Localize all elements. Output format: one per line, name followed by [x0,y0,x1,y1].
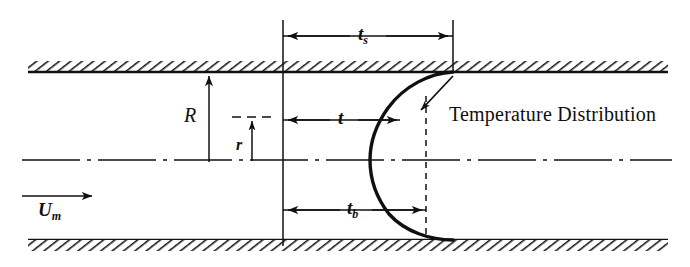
top-wall [28,61,668,72]
label-tb-subscript: b [352,207,358,221]
label-temperature-distribution: Temperature Distribution [449,104,656,124]
label-radius-outer: R [184,105,196,125]
top-wall-hatching [28,61,668,72]
label-mean-velocity: Um [38,200,61,219]
bottom-wall-hatching [28,240,668,251]
label-ts-subscript: s [363,33,368,47]
temperature-distribution-figure: ts t tb R r Um Temperature Distribution [0,0,690,267]
label-Um-subscript: m [52,209,61,223]
label-thickness-surface: ts [358,24,368,43]
bottom-wall [28,240,668,251]
label-radius-inner: r [236,137,242,153]
label-Um-base: U [38,199,52,220]
label-thickness-mid: t [338,108,343,127]
label-thickness-bulk: tb [347,198,358,217]
temperature-distribution-curve [370,72,453,240]
figure-canvas [0,0,690,267]
label-t-base: t [338,107,343,128]
